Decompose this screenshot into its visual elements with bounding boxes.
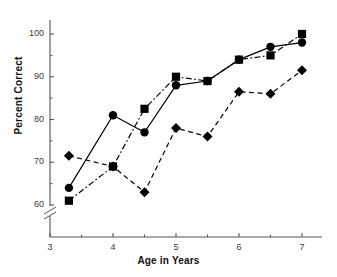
data-point-square bbox=[65, 197, 73, 205]
data-point-square bbox=[203, 77, 211, 85]
data-point-diamond bbox=[203, 132, 213, 142]
data-point-square bbox=[140, 105, 148, 113]
x-tick-label: 6 bbox=[229, 242, 249, 252]
data-point-diamond bbox=[64, 151, 74, 161]
x-tick-label: 5 bbox=[166, 242, 186, 252]
data-point-circle bbox=[109, 111, 117, 119]
data-point-circle bbox=[65, 184, 73, 192]
data-point-diamond bbox=[297, 65, 307, 75]
data-point-square bbox=[298, 30, 306, 38]
y-tick-label: 80 bbox=[18, 114, 44, 124]
data-point-square bbox=[266, 51, 274, 59]
y-tick-label: 70 bbox=[18, 156, 44, 166]
data-point-circle bbox=[266, 43, 274, 51]
x-tick-label: 7 bbox=[292, 242, 312, 252]
data-point-square bbox=[235, 56, 243, 64]
x-tick-label: 4 bbox=[103, 242, 123, 252]
data-point-circle bbox=[172, 81, 180, 89]
series-diamond-series bbox=[64, 65, 307, 197]
data-point-circle bbox=[298, 38, 306, 46]
y-tick-label: 100 bbox=[18, 28, 44, 38]
data-point-square bbox=[172, 73, 180, 81]
data-point-diamond bbox=[171, 123, 181, 133]
data-point-diamond bbox=[234, 87, 244, 97]
series-line bbox=[69, 43, 302, 188]
data-point-circle bbox=[140, 128, 148, 136]
x-axis-title: Age in Years bbox=[0, 255, 337, 266]
y-axis-title: Percent Correct bbox=[13, 41, 24, 151]
plot-area bbox=[0, 0, 337, 277]
series-circle-series bbox=[65, 38, 306, 192]
x-tick-label: 3 bbox=[40, 242, 60, 252]
y-tick-label: 60 bbox=[18, 199, 44, 209]
series-square-series bbox=[65, 30, 306, 205]
chart-container: Percent Correct Age in Years 60708090100… bbox=[0, 0, 337, 277]
data-point-diamond bbox=[266, 89, 276, 99]
y-tick-label: 90 bbox=[18, 71, 44, 81]
